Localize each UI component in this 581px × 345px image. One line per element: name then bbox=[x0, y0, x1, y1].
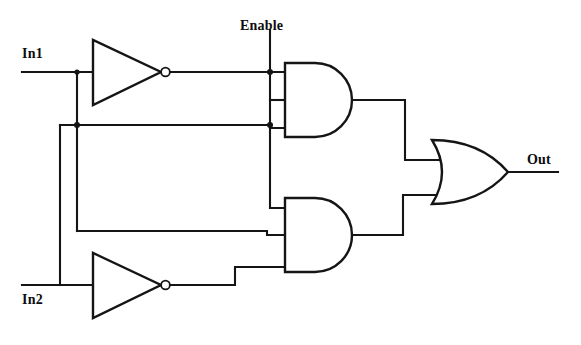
circuit-diagram-canvas: In1 In2 Enable Out bbox=[0, 0, 581, 345]
inverter-top-bubble bbox=[161, 68, 170, 77]
inverter-bottom-triangle bbox=[93, 253, 161, 318]
and-gate-bottom bbox=[285, 195, 441, 272]
net-enable bbox=[267, 30, 285, 208]
and-gate-bottom-body bbox=[285, 198, 352, 272]
inverter-top-triangle bbox=[93, 40, 161, 105]
and-gate-top bbox=[285, 63, 443, 160]
and-gate-top-body bbox=[285, 63, 352, 137]
net-in2 bbox=[22, 125, 285, 285]
label-enable: Enable bbox=[240, 18, 283, 34]
wire-and-top-output bbox=[352, 100, 443, 160]
junction-enable-mid bbox=[267, 122, 273, 128]
wire-enable-down-to-and-bottom bbox=[270, 125, 285, 208]
label-in2: In2 bbox=[22, 292, 43, 308]
schematic-svg bbox=[0, 0, 581, 345]
junction-in1-top bbox=[74, 69, 79, 74]
label-out: Out bbox=[527, 152, 551, 168]
wire-and-bottom-output bbox=[352, 195, 441, 235]
inverter-bottom-bubble bbox=[161, 281, 170, 290]
wire-ninv2-to-and-bottom bbox=[170, 267, 285, 285]
or-gate bbox=[432, 140, 558, 204]
inverter-top bbox=[93, 40, 285, 105]
or-gate-body bbox=[432, 140, 508, 204]
wire-in2-to-and-top bbox=[60, 125, 285, 128]
label-in1: In1 bbox=[22, 46, 43, 62]
wire-in1-to-and-bottom bbox=[77, 231, 285, 235]
net-in1 bbox=[22, 69, 285, 235]
inverter-bottom bbox=[93, 253, 285, 318]
